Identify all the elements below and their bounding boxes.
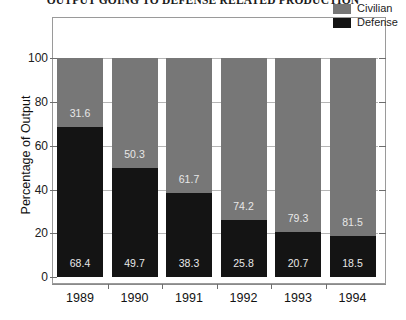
x-tick-1993 — [271, 284, 272, 289]
x-tick-1991 — [162, 284, 163, 289]
legend-item-civilian[interactable]: Civilian — [333, 3, 398, 14]
y-axis-label-20: 20 — [8, 227, 48, 239]
x-axis-label-1992: 1992 — [214, 292, 274, 305]
x-axis-label-1991: 1991 — [159, 292, 219, 305]
x-axis-label-1993: 1993 — [268, 292, 328, 305]
x-axis-label-1989: 1989 — [50, 292, 110, 305]
y-axis-title: Percentage of Output — [19, 55, 33, 255]
y-axis-label-60: 60 — [8, 140, 48, 152]
legend-label-defense: Defense — [357, 17, 398, 28]
y-axis-label-80: 80 — [8, 96, 48, 108]
x-tick-1994 — [326, 284, 327, 289]
legend-label-civilian: Civilian — [357, 3, 392, 14]
chart-legend: Civilian Defense — [333, 3, 398, 28]
y-axis-label-40: 40 — [8, 184, 48, 196]
plot-frame — [52, 17, 386, 284]
x-axis-label-1990: 1990 — [105, 292, 165, 305]
legend-swatch-civilian — [333, 4, 351, 14]
y-axis-label-100: 100 — [8, 52, 48, 64]
x-tick-1992 — [217, 284, 218, 289]
x-axis-line — [52, 284, 386, 285]
x-tick-1990 — [108, 284, 109, 289]
legend-item-defense[interactable]: Defense — [333, 17, 398, 28]
legend-swatch-defense — [333, 18, 351, 28]
y-axis-label-0: 0 — [8, 271, 48, 283]
x-axis-label-1994: 1994 — [323, 292, 383, 305]
